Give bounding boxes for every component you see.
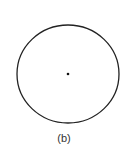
figure-label: (b) <box>0 132 128 144</box>
diagram-canvas <box>0 0 128 151</box>
center-point <box>67 73 70 76</box>
circle-diagram: (b) <box>0 0 128 151</box>
